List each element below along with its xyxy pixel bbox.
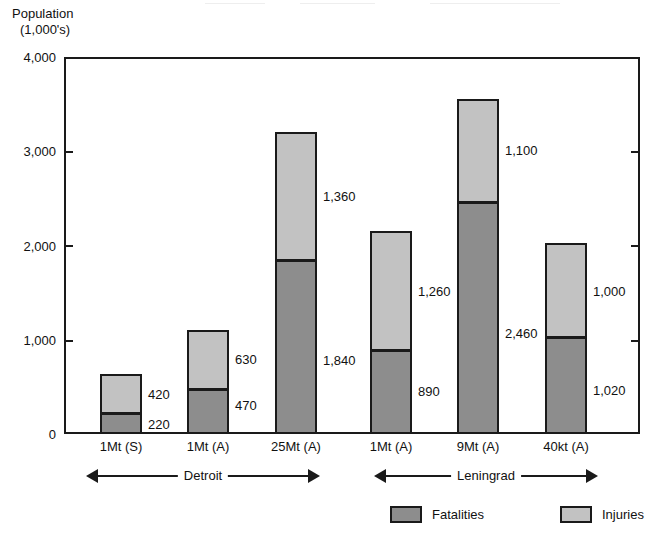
legend-label-injuries: Injuries: [602, 508, 644, 521]
x-axis-label-6: 40kt (A): [511, 440, 621, 454]
y-tick-mark-1000: [64, 340, 73, 342]
group-label-detroit: Detroit: [178, 466, 228, 485]
bar-segment-fatalities: [100, 413, 142, 434]
chart-page: Population (1,000's) 4,000 3,000 2,000 1…: [0, 0, 651, 535]
group-label-leningrad: Leningrad: [451, 466, 521, 485]
arrow-right-icon: [586, 469, 598, 483]
bar-segment-fatalities: [275, 260, 317, 434]
bar-stack-2: [187, 330, 229, 434]
scan-artifact: [430, 3, 560, 4]
bar-label-injuries-4: 1,260: [418, 285, 451, 298]
y-tick-label-0: 0: [8, 428, 56, 441]
bar-segment-injuries: [275, 132, 317, 261]
legend-item-injuries: Injuries: [560, 503, 644, 525]
y-tick-mark-right-3000: [631, 151, 640, 153]
bar-label-fatalities-5: 2,460: [505, 327, 538, 340]
group-bracket-detroit: Detroit: [86, 466, 320, 486]
arrow-left-icon: [86, 469, 98, 483]
bar-segment-fatalities: [545, 337, 587, 434]
scan-artifact: [205, 3, 265, 4]
y-tick-label-4000: 4,000: [8, 51, 56, 64]
bar-segment-injuries: [545, 243, 587, 338]
legend-label-fatalities: Fatalities: [432, 508, 484, 521]
arrow-left-icon: [374, 469, 386, 483]
y-tick-mark-2000: [64, 245, 73, 247]
bar-segment-fatalities: [187, 389, 229, 434]
legend-swatch-injuries: [560, 506, 592, 523]
bar-segment-injuries: [370, 231, 412, 351]
bar-label-fatalities-1: 220: [148, 418, 170, 431]
y-axis-title-line1: Population: [12, 6, 73, 21]
y-tick-label-3000: 3,000: [8, 145, 56, 158]
x-axis-label-3: 25Mt (A): [241, 440, 351, 454]
bar-label-fatalities-6: 1,020: [593, 384, 626, 397]
y-tick-mark-3000: [64, 151, 73, 153]
bar-stack-3: [275, 132, 317, 434]
scan-artifact: [300, 3, 375, 4]
bar-stack-6: [545, 243, 587, 434]
y-tick-label-1000: 1,000: [8, 334, 56, 347]
legend-item-fatalities: Fatalities: [390, 503, 484, 525]
bar-stack-5: [457, 99, 499, 434]
arrow-right-icon: [308, 469, 320, 483]
bar-stack-4: [370, 231, 412, 434]
bar-label-fatalities-4: 890: [418, 385, 440, 398]
bar-segment-injuries: [457, 99, 499, 203]
bar-label-injuries-3: 1,360: [323, 190, 356, 203]
bar-label-injuries-2: 630: [235, 353, 257, 366]
y-axis-title-units: (1,000's): [20, 22, 70, 37]
bar-segment-injuries: [100, 374, 142, 414]
bar-label-fatalities-2: 470: [235, 399, 257, 412]
y-tick-mark-right-1000: [631, 340, 640, 342]
bar-label-injuries-6: 1,000: [593, 285, 626, 298]
bar-segment-fatalities: [370, 350, 412, 434]
y-tick-label-2000: 2,000: [8, 240, 56, 253]
bar-segment-injuries: [187, 330, 229, 390]
bar-label-fatalities-3: 1,840: [323, 354, 356, 367]
legend-swatch-fatalities: [390, 506, 422, 523]
bar-label-injuries-5: 1,100: [505, 144, 538, 157]
group-bracket-leningrad: Leningrad: [374, 466, 598, 486]
bar-stack-1: [100, 374, 142, 434]
bar-label-injuries-1: 420: [148, 388, 170, 401]
bar-segment-fatalities: [457, 202, 499, 434]
y-tick-mark-right-2000: [631, 245, 640, 247]
